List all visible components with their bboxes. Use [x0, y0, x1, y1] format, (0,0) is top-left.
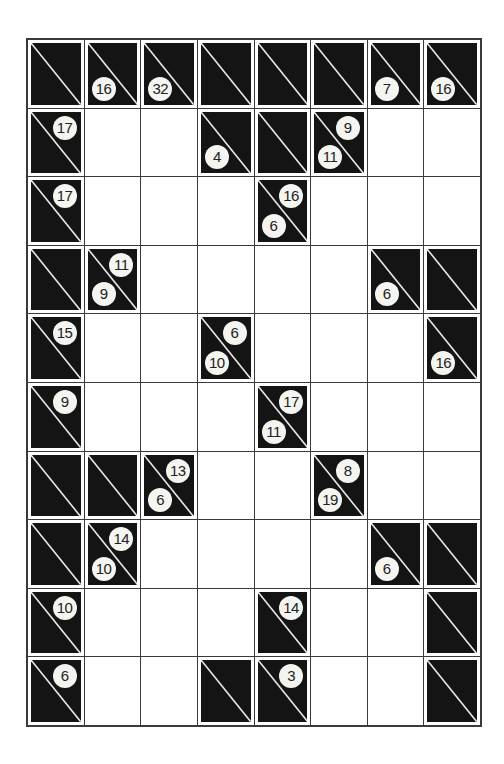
across-clue: 10 — [53, 596, 77, 620]
entry-cell[interactable] — [424, 383, 480, 451]
entry-cell[interactable] — [141, 177, 197, 245]
diagonal-divider-icon — [427, 592, 477, 654]
entry-cell[interactable] — [368, 589, 424, 657]
clue-block-cell: 14 — [255, 589, 311, 657]
block-fill: 16 — [427, 317, 477, 379]
entry-cell[interactable] — [141, 246, 197, 314]
entry-cell[interactable] — [311, 177, 367, 245]
clue-block-cell: 15 — [28, 314, 84, 382]
entry-cell[interactable] — [85, 177, 141, 245]
entry-cell[interactable] — [255, 520, 311, 588]
clue-block-cell — [28, 452, 84, 520]
down-clue: 7 — [375, 77, 399, 101]
diagonal-divider-icon — [31, 455, 81, 517]
across-clue: 17 — [53, 116, 77, 140]
entry-cell[interactable] — [255, 452, 311, 520]
across-clue: 11 — [109, 253, 133, 277]
clue-block-cell: 17 — [28, 177, 84, 245]
clue-block-cell — [85, 452, 141, 520]
entry-cell[interactable] — [368, 109, 424, 177]
clue-block-cell: 16 — [424, 40, 480, 108]
diagonal-divider-icon — [201, 43, 251, 105]
down-clue: 9 — [92, 282, 116, 306]
clue-block-cell — [28, 40, 84, 108]
block-fill: 1014 — [88, 523, 138, 585]
entry-cell[interactable] — [255, 246, 311, 314]
entry-cell[interactable] — [424, 452, 480, 520]
across-clue: 14 — [279, 596, 303, 620]
entry-cell[interactable] — [311, 520, 367, 588]
entry-cell[interactable] — [424, 177, 480, 245]
entry-cell[interactable] — [85, 383, 141, 451]
block-fill: 4 — [201, 112, 251, 174]
clue-block-cell — [424, 589, 480, 657]
entry-cell[interactable] — [368, 452, 424, 520]
block-fill — [427, 592, 477, 654]
entry-cell[interactable] — [424, 109, 480, 177]
block-fill — [258, 112, 308, 174]
block-fill — [427, 523, 477, 585]
diagonal-divider-icon — [88, 455, 138, 517]
down-clue: 6 — [262, 214, 286, 238]
block-fill: 16 — [88, 43, 138, 105]
diagonal-divider-icon — [201, 660, 251, 722]
entry-cell[interactable] — [85, 109, 141, 177]
entry-cell[interactable] — [311, 314, 367, 382]
block-fill — [31, 43, 81, 105]
entry-cell[interactable] — [198, 383, 254, 451]
block-fill: 7 — [371, 43, 421, 105]
down-clue: 32 — [148, 77, 172, 101]
clue-block-cell: 7 — [368, 40, 424, 108]
block-fill: 9 — [31, 386, 81, 448]
entry-cell[interactable] — [311, 589, 367, 657]
clue-block-cell: 1014 — [85, 520, 141, 588]
diagonal-divider-icon — [31, 523, 81, 585]
down-clue: 11 — [262, 420, 286, 444]
block-fill — [201, 660, 251, 722]
clue-block-cell: 1117 — [255, 383, 311, 451]
block-fill: 14 — [258, 592, 308, 654]
clue-block-cell: 17 — [28, 109, 84, 177]
entry-cell[interactable] — [141, 383, 197, 451]
across-clue: 6 — [53, 664, 77, 688]
clue-block-cell: 198 — [311, 452, 367, 520]
diagonal-divider-icon — [427, 249, 477, 311]
down-clue: 16 — [92, 77, 116, 101]
diagonal-divider-icon — [258, 43, 308, 105]
entry-cell[interactable] — [368, 177, 424, 245]
entry-cell[interactable] — [141, 109, 197, 177]
entry-cell[interactable] — [368, 657, 424, 725]
entry-cell[interactable] — [198, 589, 254, 657]
entry-cell[interactable] — [85, 589, 141, 657]
diagonal-divider-icon — [314, 43, 364, 105]
across-clue: 9 — [336, 116, 360, 140]
clue-block-cell: 6 — [368, 246, 424, 314]
block-fill — [427, 249, 477, 311]
entry-cell[interactable] — [198, 452, 254, 520]
entry-cell[interactable] — [311, 657, 367, 725]
entry-cell[interactable] — [368, 383, 424, 451]
clue-block-cell — [198, 40, 254, 108]
entry-cell[interactable] — [255, 314, 311, 382]
entry-cell[interactable] — [198, 520, 254, 588]
across-clue: 8 — [336, 459, 360, 483]
block-fill — [427, 660, 477, 722]
entry-cell[interactable] — [85, 657, 141, 725]
entry-cell[interactable] — [198, 177, 254, 245]
entry-cell[interactable] — [311, 246, 367, 314]
entry-cell[interactable] — [198, 246, 254, 314]
entry-cell[interactable] — [311, 383, 367, 451]
block-fill — [88, 455, 138, 517]
clue-block-cell — [198, 657, 254, 725]
entry-cell[interactable] — [141, 314, 197, 382]
clue-block-cell: 911 — [85, 246, 141, 314]
clue-block-cell: 616 — [255, 177, 311, 245]
entry-cell[interactable] — [141, 657, 197, 725]
entry-cell[interactable] — [368, 314, 424, 382]
entry-cell[interactable] — [141, 589, 197, 657]
block-fill: 15 — [31, 317, 81, 379]
clue-block-cell — [424, 657, 480, 725]
entry-cell[interactable] — [85, 314, 141, 382]
kakuro-grid: 1632716174119176169116151061691117613198… — [26, 38, 482, 727]
entry-cell[interactable] — [141, 520, 197, 588]
